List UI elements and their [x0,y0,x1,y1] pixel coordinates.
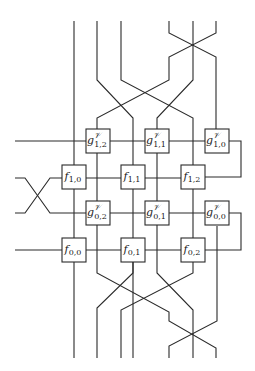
node-f-1-1: f1,1 [121,165,145,189]
node-g-1-0: g𝒱1,0 [205,129,229,153]
node-f-0-2: f0,2 [181,238,205,262]
node-f-1-2: f1,2 [181,165,205,189]
bottom-wire-a [97,262,216,358]
bottom-wire-c [157,262,193,358]
node-f-0-1: f0,1 [121,238,145,262]
node-f-0-0: f0,0 [62,238,86,262]
node-g-0-1: g𝒱0,1 [145,201,169,225]
bottom-wire-d [121,262,193,358]
node-layer: g𝒱1,2g𝒱1,1g𝒱1,0f1,0f1,1f1,2g𝒱0,2g𝒱0,1g𝒱0… [62,129,229,262]
node-g-1-2: g𝒱1,2 [86,129,110,153]
node-g-1-1: g𝒱1,1 [145,129,169,153]
node-f-1-0: f1,0 [62,165,86,189]
node-g-0-0: g𝒱0,0 [205,201,229,225]
circuit-diagram: g𝒱1,2g𝒱1,1g𝒱1,0f1,0f1,1f1,2g𝒱0,2g𝒱0,1g𝒱0… [0,0,255,371]
node-g-0-2: g𝒱0,2 [86,201,110,225]
